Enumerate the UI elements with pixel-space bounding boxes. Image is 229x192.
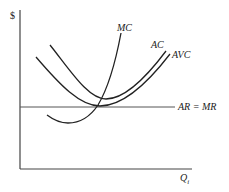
- x-axis-label: Qi: [180, 173, 189, 186]
- ac-label: AC: [151, 40, 164, 50]
- mc-label: MC: [117, 23, 132, 33]
- x-axis-label-subscript: i: [187, 178, 189, 186]
- avc-label: AVC: [172, 50, 190, 60]
- mc-curve: [47, 33, 121, 123]
- ar-mr-label: AR = MR: [178, 102, 216, 112]
- y-axis-label: $: [10, 11, 15, 21]
- cost-curves-diagram: [0, 0, 229, 192]
